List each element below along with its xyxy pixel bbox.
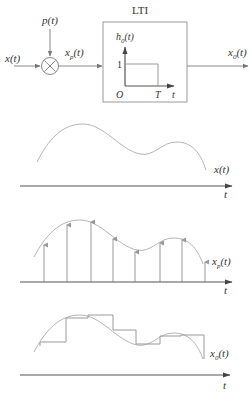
axis-label: t <box>223 379 227 391</box>
zoh-staircase <box>40 315 204 359</box>
signal-label: x(t) <box>213 163 230 176</box>
axis-label: t <box>224 188 228 200</box>
sampled-signal-label: xp(t) <box>64 46 84 61</box>
plot-original: x(t) t <box>20 124 232 200</box>
impulse-stems <box>44 222 205 282</box>
envelope-curve <box>34 220 203 264</box>
amplitude-label: 1 <box>117 59 122 70</box>
envelope-curve <box>34 315 203 359</box>
system-title: LTI <box>132 4 148 16</box>
sampled-label: xp(t) <box>211 255 231 270</box>
input-label: x(t) <box>4 52 21 65</box>
output-label: x0(t) <box>227 46 247 61</box>
zoh-label: x0(t) <box>209 347 229 362</box>
h-axis-label: t <box>172 89 175 100</box>
plot-zoh: x0(t) t <box>20 315 230 391</box>
origin-label: O <box>116 89 123 100</box>
plot-sampled: xp(t) t <box>20 220 232 296</box>
multiplier-icon <box>42 58 59 75</box>
block-diagram: x(t) p(t) xp(t) LTI h0(t) 1 O T t <box>4 4 248 102</box>
impulse-train-label: p(t) <box>41 14 58 27</box>
signal-curve <box>37 124 206 170</box>
axis-label: t <box>224 284 228 296</box>
sampling-diagram: x(t) p(t) xp(t) LTI h0(t) 1 O T t <box>0 0 252 396</box>
